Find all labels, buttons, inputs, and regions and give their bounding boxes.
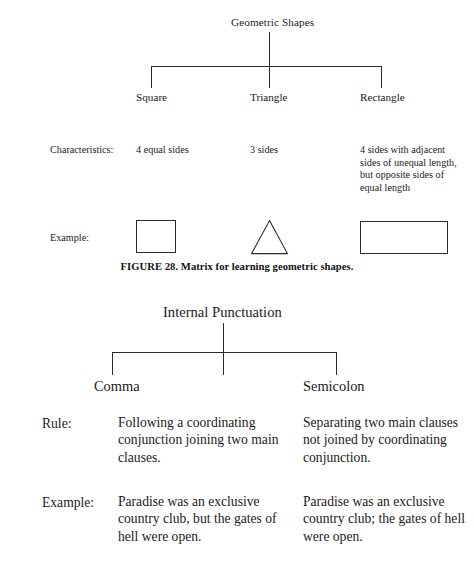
tree-branch-line-comma	[112, 352, 113, 375]
tree-branch-line-triangle	[269, 66, 270, 88]
tree-branch-line-rectangle	[381, 66, 382, 88]
column-header-semicolon: Semicolon	[303, 378, 365, 395]
cell-example-comma: Paradise was an exclusive country club, …	[118, 493, 300, 545]
cell-rule-comma: Following a coordinating conjunction joi…	[118, 414, 300, 466]
column-header-triangle: Triangle	[250, 91, 288, 103]
tree-stem-line	[269, 32, 270, 66]
cell-rule-semicolon: Separating two main clauses not joined b…	[303, 414, 474, 466]
scanned-page: Geometric Shapes Square Triangle Rectang…	[0, 0, 474, 565]
tree-branch-line-semicolon	[336, 352, 337, 375]
row-label-example: Example:	[50, 232, 89, 243]
figure-geometric-shapes: Geometric Shapes Square Triangle Rectang…	[0, 0, 474, 282]
row-label-rule: Rule:	[42, 416, 71, 432]
row-label-example: Example:	[42, 495, 94, 511]
tree-root-label: Internal Punctuation	[163, 304, 282, 321]
rectangle-icon	[360, 221, 448, 254]
tree-root-label: Geometric Shapes	[231, 16, 314, 28]
tree-branch-line-square	[151, 66, 152, 88]
tree-horizontal-bar	[112, 352, 337, 353]
square-icon	[136, 220, 176, 253]
tree-branch-line-center	[223, 352, 224, 375]
triangle-icon	[250, 219, 289, 255]
tree-stem-line	[223, 323, 224, 352]
column-header-rectangle: Rectangle	[360, 91, 405, 103]
figure-internal-punctuation: Internal Punctuation Comma Semicolon Rul…	[0, 282, 474, 565]
column-header-square: Square	[136, 91, 167, 103]
column-header-comma: Comma	[94, 378, 140, 395]
figure-caption: FIGURE 28. Matrix for learning geometric…	[0, 261, 474, 272]
cell-characteristics-triangle: 3 sides	[250, 144, 350, 157]
cell-characteristics-rectangle: 4 sides with adjacent sides of unequal l…	[360, 144, 464, 194]
row-label-characteristics: Characteristics:	[50, 144, 113, 155]
cell-example-semicolon: Paradise was an exclusive country club; …	[303, 493, 474, 545]
cell-characteristics-square: 4 equal sides	[136, 144, 241, 157]
tree-horizontal-bar	[151, 66, 382, 67]
